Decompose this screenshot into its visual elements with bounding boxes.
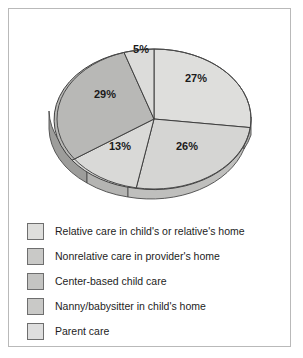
slice-nonrelative-care[interactable] xyxy=(136,119,250,190)
legend-swatch-icon xyxy=(27,273,44,290)
legend-item-center-based[interactable]: Center-based child care xyxy=(27,269,277,294)
pie-top-face xyxy=(54,49,251,190)
figure-frame: 27% 26% 13% 29% 5% Relative care in chil… xyxy=(8,8,291,347)
chart-legend: Relative care in child's or relative's h… xyxy=(27,219,277,344)
legend-label: Relative care in child's or relative's h… xyxy=(55,226,245,237)
slice-label-parent-care: 5% xyxy=(133,43,149,55)
legend-item-parent-care[interactable]: Parent care xyxy=(27,319,277,344)
legend-swatch-icon xyxy=(27,323,44,340)
legend-item-nonrelative-care[interactable]: Nonrelative care in provider's home xyxy=(27,244,277,269)
pie-chart-svg: 27% 26% 13% 29% 5% xyxy=(9,9,290,209)
legend-item-nanny-babysitter[interactable]: Nanny/babysitter in child's home xyxy=(27,294,277,319)
slice-relative-care[interactable] xyxy=(154,49,251,128)
pie-chart: 27% 26% 13% 29% 5% xyxy=(9,9,290,209)
legend-swatch-icon xyxy=(27,248,44,265)
slice-label-nonrelative-care: 26% xyxy=(176,140,198,152)
legend-item-relative-care[interactable]: Relative care in child's or relative's h… xyxy=(27,219,277,244)
legend-label: Center-based child care xyxy=(55,276,166,287)
legend-label: Nonrelative care in provider's home xyxy=(55,251,220,262)
legend-swatch-icon xyxy=(27,298,44,315)
slice-label-center-based: 13% xyxy=(109,140,131,152)
slice-label-nanny-babysitter: 29% xyxy=(94,88,116,100)
legend-label: Parent care xyxy=(55,326,109,337)
legend-swatch-icon xyxy=(27,223,44,240)
legend-label: Nanny/babysitter in child's home xyxy=(55,301,206,312)
slice-label-relative-care: 27% xyxy=(185,72,207,84)
